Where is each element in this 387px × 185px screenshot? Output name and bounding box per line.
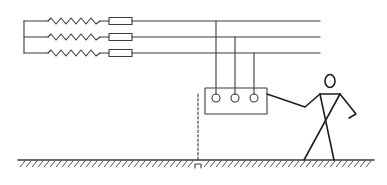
fuse-3	[109, 50, 132, 57]
ground-rod-symbol	[195, 164, 201, 168]
person-figure	[267, 75, 356, 161]
winding-zigzag-3	[48, 50, 100, 56]
fuse-2	[109, 34, 132, 41]
phase-line-1	[24, 18, 320, 25]
terminal-3	[250, 94, 258, 102]
diagram-canvas	[0, 0, 387, 185]
terminal-1	[212, 94, 220, 102]
phase-line-3	[24, 50, 320, 57]
person-head	[325, 75, 335, 88]
equipment-enclosure	[205, 88, 267, 114]
winding-zigzag-1	[48, 18, 100, 24]
terminal-2	[231, 94, 239, 102]
person-arm-touching	[267, 94, 320, 107]
winding-zigzag-2	[48, 34, 100, 40]
fuse-1	[109, 18, 132, 25]
person-arm-free	[340, 94, 356, 118]
phase-line-2	[24, 34, 320, 41]
electrical-diagram	[0, 0, 387, 185]
